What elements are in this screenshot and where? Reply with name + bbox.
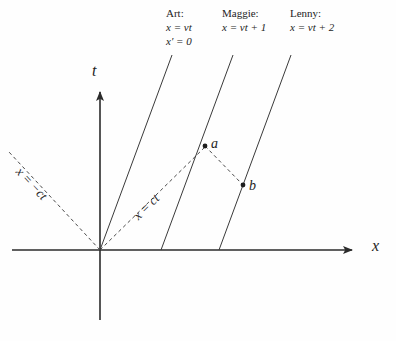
spacetime-diagram: Art: x = vt x′ = 0 Maggie: x = vt + 1 Le… (0, 0, 396, 341)
legend-art-equation-2: x′ = 0 (166, 34, 192, 48)
legend-lenny-equation: x = vt + 2 (290, 20, 334, 34)
legend-art-equation: x = vt (166, 20, 192, 34)
legend-maggie-name: Maggie: (222, 6, 266, 20)
legend-maggie-equation: x = vt + 1 (222, 20, 266, 34)
worldline-lenny (219, 55, 291, 250)
worldline-art (100, 55, 172, 250)
legend-lenny-name: Lenny: (290, 6, 334, 20)
legend-art: Art: x = vt x′ = 0 (166, 6, 192, 48)
event-point-b (241, 183, 246, 188)
diagram-canvas (0, 0, 396, 341)
legend-lenny: Lenny: x = vt + 2 (290, 6, 334, 34)
legend-maggie: Maggie: x = vt + 1 (222, 6, 266, 34)
legend-art-name: Art: (166, 6, 192, 20)
event-label-b: b (249, 178, 256, 194)
event-point-a (203, 144, 208, 149)
x-axis-label: x (372, 237, 379, 255)
worldline-maggie (161, 55, 233, 250)
t-axis-label: t (92, 62, 96, 80)
event-label-a: a (211, 136, 218, 152)
